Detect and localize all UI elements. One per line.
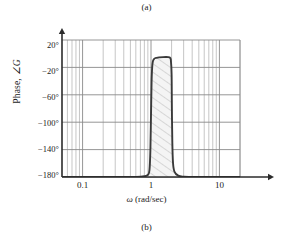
caption-b: (b): [0, 222, 293, 232]
x-tick-label: 10: [204, 180, 234, 190]
x-tick-label: 1: [136, 180, 166, 190]
phase-curve-group: [62, 57, 240, 177]
x-tick-label: 0.1: [68, 180, 98, 190]
x-axis-label: ω (rad/sec): [0, 194, 293, 204]
plot-canvas: [0, 0, 293, 244]
x-axis-label-units: (rad/sec): [133, 194, 167, 204]
figure-container: (a) Phase, ∠G 20° −20° −60° −100° −140° …: [0, 0, 293, 244]
